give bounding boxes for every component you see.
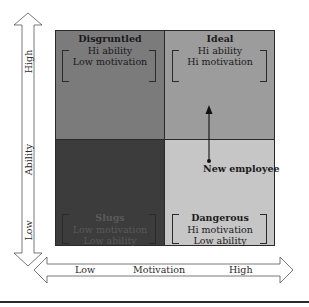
ability-motivation-matrix: Disgruntled Hi ability Low motivation Id… bbox=[0, 0, 309, 307]
bottom-rule-divider bbox=[0, 301, 309, 303]
ability-low-label: Low bbox=[23, 217, 34, 245]
motivation-low-label: Low bbox=[75, 264, 95, 275]
ability-axis-title: Ability bbox=[23, 141, 34, 179]
new-employee-label: New employee bbox=[203, 163, 280, 174]
motivation-axis-title: Motivation bbox=[133, 264, 185, 275]
arrows-layer bbox=[0, 0, 309, 307]
motivation-high-label: High bbox=[229, 264, 253, 275]
arrow-up-icon bbox=[206, 105, 213, 114]
ability-high-label: High bbox=[23, 48, 34, 76]
